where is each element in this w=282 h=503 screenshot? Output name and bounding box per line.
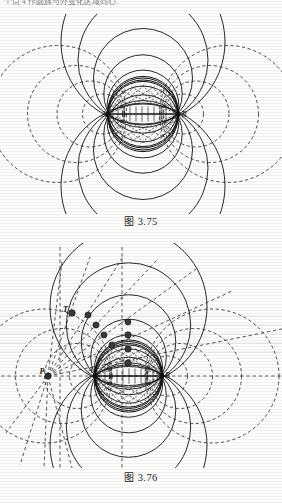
solid-circle-family-2: [50, 243, 207, 468]
caption-prefix-375: 图: [124, 216, 134, 227]
point-a-2: [93, 374, 98, 379]
ray-pencil-from-p: [0, 255, 282, 468]
point-p: [45, 373, 51, 379]
figure-375: A B: [0, 14, 282, 214]
page-canvas: 个点 4 作圆族与外变化区域同心.: [0, 0, 282, 503]
point-b-2: [160, 374, 165, 379]
figure-376-caption: 图 3.76: [0, 469, 282, 484]
figure-376-canvas: P T A B: [0, 243, 282, 468]
label-a-2: A: [87, 366, 93, 375]
caption-prefix-376: 图: [124, 472, 134, 483]
caption-number-375: 3.75: [138, 216, 158, 227]
caption-number-376: 3.76: [138, 472, 158, 483]
figure-375-canvas: A B: [0, 14, 282, 214]
figure-376: P T A B: [0, 243, 282, 468]
label-b-2: B: [165, 371, 170, 380]
label-a: A: [101, 110, 107, 119]
figure-375-caption: 图 3.75: [0, 213, 282, 228]
focus-point-b: [176, 112, 181, 117]
label-b: B: [182, 110, 187, 119]
running-text-top: 个点 4 作圆族与外变化区域同心.: [4, 0, 204, 6]
label-p: P: [40, 367, 45, 376]
